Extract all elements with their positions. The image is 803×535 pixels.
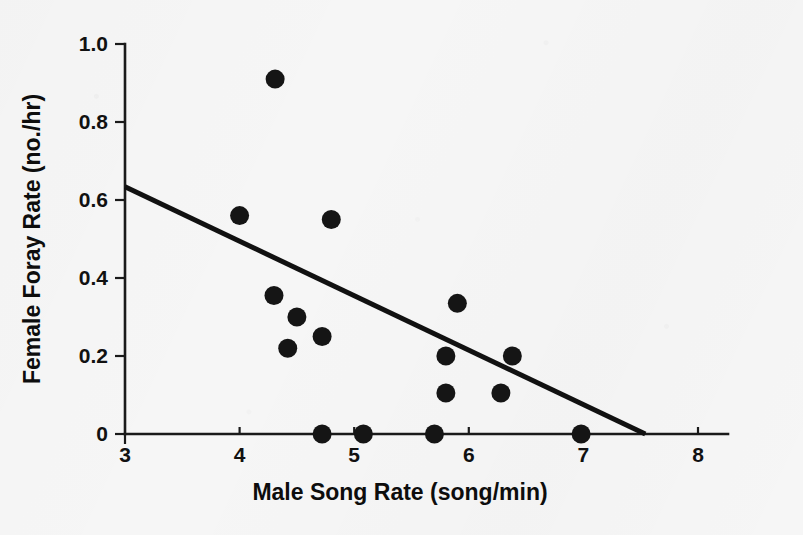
scatter-plot-figure: 00.20.40.60.81.0 345678 Male Song Rate (… bbox=[0, 0, 803, 535]
y-axis-tick-labels: 00.20.40.60.81.0 bbox=[79, 32, 109, 445]
y-tick-label: 0.2 bbox=[79, 344, 108, 367]
data-point bbox=[313, 327, 332, 346]
x-tick-label: 3 bbox=[119, 443, 131, 466]
data-point bbox=[278, 339, 297, 358]
data-point bbox=[287, 308, 306, 327]
x-axis-tick-marks bbox=[125, 427, 698, 444]
plot-canvas: 00.20.40.60.81.0 345678 Male Song Rate (… bbox=[0, 0, 803, 535]
x-axis-tick-labels: 345678 bbox=[119, 443, 704, 466]
regression-line bbox=[125, 187, 645, 434]
data-point bbox=[266, 70, 285, 89]
data-points-group bbox=[230, 70, 591, 444]
x-tick-label: 7 bbox=[578, 443, 590, 466]
data-point bbox=[425, 425, 444, 444]
data-point bbox=[436, 347, 455, 366]
y-tick-label: 0.8 bbox=[79, 110, 109, 133]
data-point bbox=[448, 294, 467, 313]
x-tick-label: 4 bbox=[234, 443, 246, 466]
x-tick-label: 5 bbox=[348, 443, 360, 466]
data-point bbox=[436, 384, 455, 403]
data-point bbox=[503, 347, 522, 366]
data-point bbox=[264, 286, 283, 305]
axes-group bbox=[125, 44, 728, 434]
x-tick-label: 8 bbox=[692, 443, 704, 466]
y-tick-label: 0 bbox=[96, 422, 108, 445]
data-point bbox=[572, 425, 591, 444]
data-point bbox=[491, 384, 510, 403]
y-tick-label: 1.0 bbox=[79, 32, 108, 55]
y-axis-tick-marks bbox=[115, 44, 125, 434]
regression-trendline bbox=[125, 187, 645, 434]
data-point bbox=[230, 206, 249, 225]
y-tick-label: 0.6 bbox=[79, 188, 108, 211]
y-tick-label: 0.4 bbox=[79, 266, 109, 289]
data-point bbox=[354, 425, 373, 444]
data-point bbox=[313, 425, 332, 444]
y-axis-title: Female Foray Rate (no./hr) bbox=[19, 94, 45, 384]
x-tick-label: 6 bbox=[463, 443, 475, 466]
data-point bbox=[322, 210, 341, 229]
x-axis-title: Male Song Rate (song/min) bbox=[252, 479, 547, 505]
